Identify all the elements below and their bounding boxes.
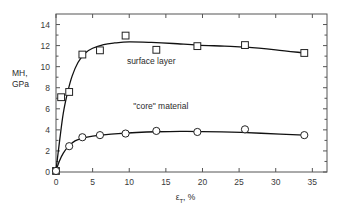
data-point-circle: [66, 143, 73, 150]
series-annotations: surface layer"core" material: [127, 56, 189, 111]
data-point-circle: [122, 130, 129, 137]
chart-figure: MH, GPa 0510152025303502468101214 surfac…: [0, 0, 341, 208]
data-point-circle: [79, 134, 86, 141]
axis-ticks: [56, 14, 327, 172]
x-tick-label: 10: [125, 177, 135, 187]
annotation-2: "core" material: [133, 101, 188, 111]
y-tick-label: 10: [41, 62, 51, 72]
plot-frame: [56, 14, 327, 172]
y-tick-label: 14: [41, 20, 51, 30]
data-point-circle: [153, 127, 160, 134]
x-axis-title-text: εT, %: [176, 192, 196, 204]
data-point-circle: [52, 167, 59, 174]
data-point-square: [79, 51, 86, 58]
axes-frame: [56, 14, 327, 172]
data-point-square: [66, 89, 73, 96]
x-tick-label: 25: [234, 177, 244, 187]
x-tick-label: 0: [54, 177, 59, 187]
data-point-circle: [301, 132, 308, 139]
x-tick-label: 20: [198, 177, 208, 187]
x-tick-label: 30: [271, 177, 281, 187]
data-point-square: [242, 42, 249, 49]
data-point-circle: [241, 126, 248, 133]
x-tick-label: 15: [161, 177, 171, 187]
data-point-square: [97, 47, 104, 54]
y-tick-label: 12: [41, 41, 51, 51]
y-tick-label: 8: [45, 83, 50, 93]
fit-curve-2: [56, 131, 304, 170]
data-point-square: [122, 32, 129, 39]
data-point-square: [301, 50, 308, 57]
y-tick-label: 2: [45, 146, 50, 156]
data-point-circle: [194, 128, 201, 135]
y-tick-label: 0: [45, 167, 50, 177]
y-tick-label: 6: [45, 104, 50, 114]
y-tick-label: 4: [45, 125, 50, 135]
x-tick-label: 5: [90, 177, 95, 187]
annotation-1: surface layer: [127, 56, 176, 66]
data-point-square: [153, 46, 160, 53]
data-point-square: [58, 94, 65, 101]
x-axis-title: εT, %: [176, 192, 196, 204]
x-axis-title-unit: , %: [183, 192, 196, 202]
data-point-square: [194, 43, 201, 50]
x-tick-label: 35: [308, 177, 318, 187]
plot-area: 0510152025303502468101214 surface layer"…: [0, 0, 341, 208]
data-point-circle: [96, 132, 103, 139]
